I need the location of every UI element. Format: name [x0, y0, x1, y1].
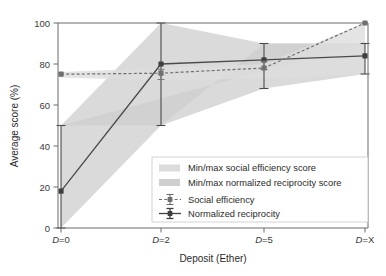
legend-swatch-reciprocity-band — [159, 179, 180, 186]
legend-label-reciprocity-band: Min/max normalized reciprocity score — [188, 178, 341, 188]
x-tick-suffix: =X — [362, 234, 375, 245]
figure-chart: 100 80 60 40 20 0 D=0 D=2 D=5 D=X — [0, 0, 386, 276]
y-axis-title: Average score (%) — [9, 85, 20, 168]
x-tick-suffix: =5 — [262, 234, 273, 245]
legend-label-social-band: Min/max social efficiency score — [188, 163, 316, 173]
x-tick-label-0: D=0 — [52, 234, 70, 245]
chart-legend: Min/max social efficiency score Min/max … — [152, 157, 368, 222]
y-tick-label: 80 — [39, 59, 50, 70]
legend-swatch-social-band — [159, 165, 180, 172]
chart-svg: 100 80 60 40 20 0 D=0 D=2 D=5 D=X — [0, 0, 386, 276]
y-tick-label: 20 — [39, 182, 50, 193]
y-axis-tick-labels: 100 80 60 40 20 0 — [34, 18, 50, 234]
x-tick-label-2: D=5 — [255, 234, 273, 245]
y-tick-label: 40 — [39, 141, 50, 152]
x-tick-suffix: =2 — [159, 234, 170, 245]
x-tick-label-3: D=X — [356, 234, 375, 245]
y-tick-label: 0 — [45, 223, 50, 234]
x-tick-suffix: =0 — [59, 234, 70, 245]
x-tick-label-1: D=2 — [152, 234, 170, 245]
x-axis-ticks — [61, 228, 365, 233]
y-tick-label: 100 — [34, 18, 50, 29]
x-axis-title: Deposit (Ether) — [179, 253, 246, 264]
x-axis-tick-labels: D=0 D=2 D=5 D=X — [52, 234, 375, 245]
legend-label-normalized-reciprocity: Normalized reciprocity — [188, 209, 280, 219]
y-tick-label: 60 — [39, 100, 50, 111]
legend-label-social-efficiency: Social efficiency — [188, 195, 255, 205]
